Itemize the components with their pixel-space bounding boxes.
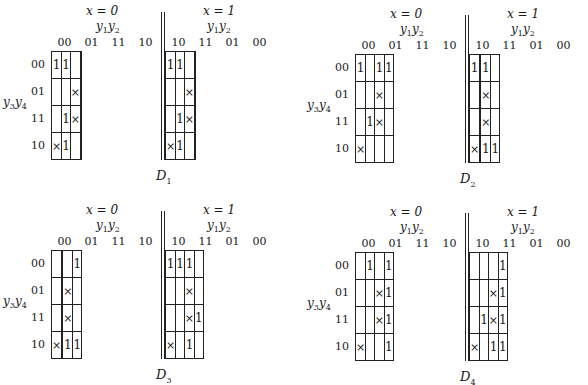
- double-divider: [465, 213, 469, 361]
- kmap-cell: 1: [385, 334, 394, 361]
- row-label: 11: [329, 108, 349, 135]
- title-letter: D: [156, 367, 166, 382]
- column-label: 11: [496, 39, 523, 52]
- column-label: 00: [246, 235, 273, 248]
- column-label: 10: [436, 39, 463, 52]
- kmap-cell: ×: [374, 307, 384, 334]
- kmap-cell: [195, 251, 204, 278]
- var-y: y: [511, 22, 518, 36]
- grid-row: ×: [52, 79, 82, 106]
- map-title: D1: [156, 168, 172, 186]
- var-y: y: [15, 95, 22, 109]
- grid-row: ×: [52, 305, 82, 332]
- kmap-cell: ×: [481, 109, 491, 136]
- sub-4: 4: [326, 303, 331, 312]
- kmap-cell: 1: [374, 55, 384, 82]
- grid-row: ×: [52, 278, 82, 305]
- kmap-cell: ×: [374, 109, 384, 136]
- column-label: 00: [550, 39, 577, 52]
- grid-row: 1×: [166, 106, 196, 133]
- column-label: 01: [523, 39, 550, 52]
- kmap-cell: [166, 106, 176, 133]
- kmap-cell: [470, 253, 480, 280]
- kmap-cell: 1: [62, 133, 71, 160]
- kmap-cell: ×: [63, 305, 73, 332]
- sub-4: 4: [326, 105, 331, 114]
- column-label: 00: [355, 39, 382, 52]
- kmap-cell: [356, 253, 366, 280]
- kmap-cell: [366, 55, 375, 82]
- grid-row: 11: [470, 55, 500, 82]
- title-subscript: 4: [470, 378, 475, 385]
- grid-row: ×1: [356, 280, 394, 307]
- sub-4: 4: [22, 102, 27, 111]
- kmap-cell: 1: [52, 52, 62, 79]
- kmap-cell: [356, 307, 366, 334]
- grid-row: ×: [166, 79, 196, 106]
- kmap-cell: [374, 253, 384, 280]
- sub-2: 2: [530, 29, 535, 38]
- grid-row: ×11: [470, 136, 500, 163]
- kmap-cell: [52, 278, 62, 305]
- kmap-cell: ×: [52, 133, 62, 160]
- grid-row: ×: [470, 82, 500, 109]
- kmap-cell: [366, 136, 375, 163]
- kmap-cell: [73, 305, 82, 332]
- kmap-cell: 1: [385, 253, 394, 280]
- kmap-cell: [195, 106, 196, 133]
- y1y2-label: y1y2: [511, 220, 535, 236]
- row-label: 00: [25, 250, 45, 277]
- kmap-cell: 1: [73, 251, 82, 278]
- column-label: 10: [132, 235, 159, 248]
- kmap-cell: [491, 82, 500, 109]
- kmap-cell: ×: [63, 278, 73, 305]
- sub-2: 2: [226, 26, 231, 35]
- column-label: 01: [382, 39, 409, 52]
- x1-header: x = 1: [203, 4, 235, 18]
- x0-header: x = 0: [390, 205, 422, 219]
- kmap-cell: 1: [176, 251, 185, 278]
- row-label: 10: [25, 331, 45, 358]
- map-title: D3: [156, 367, 172, 385]
- row-label: 00: [329, 252, 349, 279]
- var-y: y: [96, 19, 103, 33]
- column-label: 10: [469, 237, 496, 250]
- kmap-cell: ×: [470, 136, 480, 163]
- kmap-cell: [470, 307, 480, 334]
- sub-4: 4: [22, 301, 27, 310]
- column-label: 00: [51, 36, 78, 49]
- kmap-cell: 1: [166, 251, 176, 278]
- kmap-cell: 1: [366, 253, 375, 280]
- kmap-cell: [166, 278, 176, 305]
- kmap-cell: 1: [481, 136, 491, 163]
- grid-row: 1: [52, 251, 82, 278]
- var-y: y: [207, 19, 214, 33]
- left-grid-x0: 11×1×1×1: [355, 252, 394, 361]
- kmap-cell: 1: [195, 305, 204, 332]
- row-label: 11: [25, 105, 45, 132]
- kmap-cell: ×: [184, 106, 194, 133]
- kmap-cell: [176, 332, 185, 359]
- var-y: y: [319, 296, 326, 310]
- grid-row: ×1: [356, 334, 394, 361]
- kmap-cell: [195, 332, 204, 359]
- x1-header: x = 1: [507, 7, 539, 21]
- kmap-cell: [195, 52, 196, 79]
- kmap-cell: ×: [470, 334, 480, 361]
- kmap-cell: [470, 280, 480, 307]
- kmap-cell: 1: [176, 106, 185, 133]
- column-label: 01: [523, 237, 550, 250]
- var-y: y: [400, 220, 407, 234]
- kmap-cell: [195, 79, 196, 106]
- var-y: y: [523, 220, 530, 234]
- kmap-cell: [52, 79, 62, 106]
- kmap-cell: [176, 278, 185, 305]
- var-y: y: [307, 296, 314, 310]
- kmap-cell: 1: [73, 332, 82, 359]
- kmap-cell: [81, 52, 82, 79]
- grid-row: ×1: [356, 307, 394, 334]
- kmap-cell: [491, 109, 500, 136]
- kmap-cell: 1: [356, 55, 366, 82]
- grid-row: 11: [52, 52, 82, 79]
- kmap-cell: [356, 280, 366, 307]
